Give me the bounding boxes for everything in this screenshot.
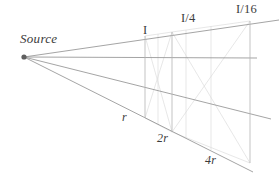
source-point: [21, 54, 26, 59]
ray-lower-edge: [24, 57, 253, 172]
intensity-label-i-over-4: I/4: [181, 12, 196, 25]
inverse-square-law-figure: Source I I/4 I/16 r 2r 4r: [0, 0, 279, 176]
intensity-label-i-over-16: I/16: [236, 3, 257, 16]
diagram-canvas: [0, 0, 279, 176]
faint-diagonal-a: [145, 36, 172, 132]
faint-diagonal-c: [145, 32, 172, 118]
intensity-label-i: I: [143, 24, 147, 37]
faint-edge-a: [145, 32, 172, 36]
distance-label-2r: 2r: [157, 132, 168, 144]
distance-label-4r: 4r: [205, 154, 216, 166]
ray-upper-edge: [24, 20, 279, 57]
source-rays: [24, 20, 279, 172]
source-label: Source: [20, 32, 57, 45]
ray-axis: [24, 57, 257, 58]
distance-label-r: r: [122, 111, 127, 123]
